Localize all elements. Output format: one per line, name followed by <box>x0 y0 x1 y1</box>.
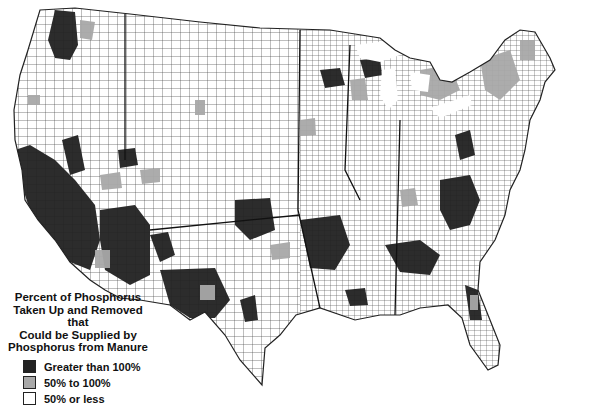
legend-item-50-to-100: 50% to 100% <box>23 375 153 391</box>
legend: Percent of Phosphorus Taken Up and Remov… <box>3 291 153 407</box>
legend-item-greater-than-100: Greater than 100% <box>23 359 153 375</box>
legend-title-line: Could be Supplied by <box>3 329 153 342</box>
legend-label: 50% or less <box>44 393 105 405</box>
swatch-gray <box>23 376 36 389</box>
swatch-dark <box>23 360 36 373</box>
legend-title-line: Percent of Phosphorus <box>3 291 153 304</box>
legend-title: Percent of Phosphorus Taken Up and Remov… <box>3 291 153 354</box>
legend-title-line: Taken Up and Removed that <box>3 304 153 329</box>
swatch-white <box>23 392 36 405</box>
legend-label: Greater than 100% <box>44 361 141 373</box>
legend-item-50-or-less: 50% or less <box>23 391 153 407</box>
legend-title-line: Phosphorus from Manure <box>3 341 153 354</box>
legend-label: 50% to 100% <box>44 377 111 389</box>
